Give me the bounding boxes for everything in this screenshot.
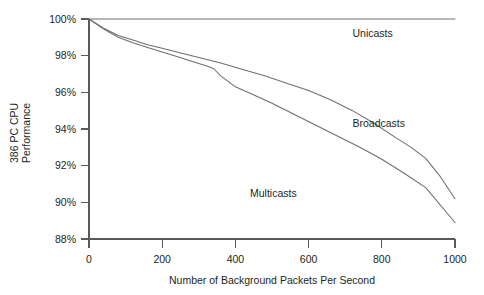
x-tick-labels: 02004006008001000 [86, 253, 467, 265]
x-tick-label-400: 400 [227, 253, 245, 265]
series-annotation-group: UnicastsBroadcastsMulticasts [250, 27, 405, 199]
line-chart: 88%90%92%94%96%98%100% 02004006008001000… [0, 0, 484, 295]
x-tick-label-200: 200 [153, 253, 171, 265]
x-tick-label-0: 0 [86, 253, 92, 265]
series-label-multicasts: Multicasts [250, 187, 297, 199]
x-tick-label-800: 800 [373, 253, 391, 265]
y-axis-title-line-2: Performance [20, 103, 32, 163]
series-label-unicasts: Unicasts [353, 27, 393, 39]
x-axis-group: 02004006008001000 [86, 239, 467, 265]
y-tick-label-98%: 98% [55, 49, 76, 61]
y-tick-label-100%: 100% [49, 13, 76, 25]
chart-figure: 88%90%92%94%96%98%100% 02004006008001000… [0, 0, 484, 295]
y-tick-labels: 88%90%92%94%96%98%100% [49, 13, 76, 245]
x-axis-title: Number of Background Packets Per Second [169, 274, 375, 286]
y-axis-title-line-1: 386 PC CPU [8, 103, 20, 163]
y-tick-label-92%: 92% [55, 159, 76, 171]
series-label-broadcasts: Broadcasts [353, 117, 406, 129]
x-tick-label-600: 600 [300, 253, 318, 265]
y-tick-marks [81, 19, 89, 239]
y-tick-label-88%: 88% [55, 233, 76, 245]
x-tick-marks [89, 239, 455, 248]
y-axis-title: 386 PC CPU Performance [8, 103, 32, 163]
y-tick-label-96%: 96% [55, 86, 76, 98]
y-tick-label-90%: 90% [55, 196, 76, 208]
y-axis-group: 88%90%92%94%96%98%100% [49, 13, 89, 245]
x-tick-label-1000: 1000 [443, 253, 467, 265]
y-tick-label-94%: 94% [55, 123, 76, 135]
